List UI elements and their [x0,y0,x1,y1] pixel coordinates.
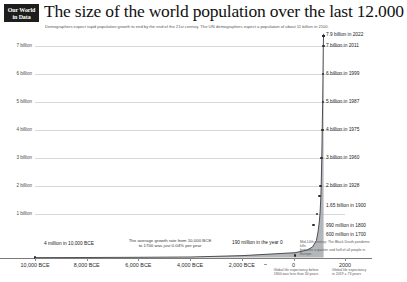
annotation-life-exp-1800-line2: 1800 was less than 30 years [267,272,325,276]
annotation-life-exp-2019-line2: in 2019 = 73 years [332,272,392,276]
data-label-1987: 5 billion in 1987 [326,99,359,104]
logo-line-2: in Data [4,14,39,21]
annotation-growth-rate: The average growth rate from 10,000 BCE … [120,238,220,248]
annotation-year-zero: 190 million in the year 0 [232,240,283,245]
annotation-black-death-line1: Mid-14th century: The Black Death pandem… [300,240,372,248]
plot-area: 7 billion 6 billion 5 billion 4 billion … [35,36,345,258]
x-tick-mark-6000bce [138,258,139,261]
x-tick-label-4000bce: 4,000 BCE [177,262,203,268]
marker-1900 [318,195,321,198]
x-tick-label-8000bce: 8,000 BCE [74,262,100,268]
data-label-1800: 990 million in 1800 [326,223,366,228]
x-tick-mark-2000bce [242,258,243,261]
y-tick-label-5: 5 billion [16,99,32,104]
annotation-life-expectancy-1800: Global life expectancy before 1800 was l… [267,268,325,276]
x-tick-mark-8000bce [87,258,88,261]
owid-logo[interactable]: Our World in Data [4,4,39,22]
chart-container: Our World in Data The size of the world … [0,0,407,282]
logo-line-1: Our World [4,7,39,14]
data-label-1900: 1.65 billion in 1900 [326,203,366,208]
y-tick-label-7: 7 billion [16,43,32,48]
x-tick-mark-2000 [345,258,346,261]
marker-1700 [312,224,315,227]
x-axis-line [0,258,372,259]
x-tick-label-6000bce: 6,000 BCE [125,262,151,268]
marker-1975 [321,129,324,132]
y-tick-label-1: 1 billion [16,211,32,216]
x-tick-mark-4000bce [190,258,191,261]
x-tick-label-2000bce: 2,000 BCE [229,262,255,268]
y-tick-label-6: 6 billion [16,71,32,76]
x-tick-mark-0 [294,258,295,261]
data-label-1960: 3 billion in 1960 [326,155,359,160]
chart-subtitle: Demographers expect rapid population gro… [45,24,405,29]
leader-line-life-exp [264,264,267,265]
data-label-2022: 7.9 billion in 2022 [326,32,363,37]
annotation-life-expectancy-2019: Global life expectancy in 2019 = 73 year… [332,268,392,276]
chart-title: The size of the world population over th… [44,2,406,21]
annotation-black-death: Mid-14th century: The Black Death pandem… [300,240,372,256]
data-label-1928: 2 billion in 1928 [326,183,359,188]
data-label-1700: 600 million in 1700 [326,232,366,237]
population-curve [35,36,345,258]
data-label-1999: 6 billion in 1999 [326,71,359,76]
y-tick-label-4: 4 billion [16,127,32,132]
marker-2022 [322,35,324,37]
annotation-black-death-line2: between a quarter and half of all people… [300,248,372,256]
y-tick-label-3: 3 billion [16,155,32,160]
data-label-1975: 4 billion in 1975 [326,127,359,132]
data-label-2011: 7 billion in 2011 [326,43,359,48]
x-tick-mark-10000bce [35,258,36,261]
x-tick-label-10000bce: 10,000 BCE [20,262,49,268]
y-tick-label-2: 2 billion [16,183,32,188]
annotation-start: 4 million in 10,000 BCE [44,241,94,246]
annotation-growth-rate-line2: to 1700 was just 0.04% per year [120,243,220,248]
